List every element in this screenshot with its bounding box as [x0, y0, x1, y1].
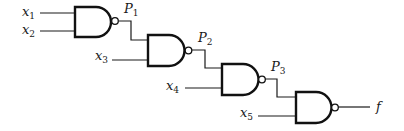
- svg-text:x1: x1: [22, 4, 35, 21]
- label-f: f: [375, 99, 383, 114]
- label-p3: P3: [270, 59, 286, 76]
- nand-gate-4: [296, 92, 338, 123]
- svg-text:x4: x4: [166, 78, 179, 95]
- wire-p3: [265, 79, 296, 97]
- label-x5: x5: [240, 105, 253, 122]
- inversion-bubble: [185, 47, 192, 54]
- svg-text:x2: x2: [22, 22, 35, 39]
- inversion-bubble: [112, 18, 119, 25]
- label-x1: x1: [22, 4, 35, 21]
- svg-text:P2: P2: [197, 30, 212, 47]
- label-p2: P2: [197, 30, 212, 47]
- nand-gate-1: [75, 7, 118, 37]
- wire-p1: [119, 21, 148, 40]
- inversion-bubble: [259, 76, 266, 83]
- wire-p2: [192, 50, 222, 68]
- nand-chain-circuit: x1 x2 x3 x4 x5 P1 P2 P3 f: [0, 0, 404, 131]
- label-x2: x2: [22, 22, 35, 39]
- label-x4: x4: [166, 78, 179, 95]
- svg-text:x5: x5: [240, 105, 253, 122]
- nand-gate-3: [222, 64, 265, 95]
- inversion-bubble: [332, 104, 339, 111]
- svg-text:P1: P1: [123, 1, 138, 18]
- svg-text:f: f: [375, 99, 383, 114]
- svg-text:P3: P3: [270, 59, 286, 76]
- label-x3: x3: [95, 48, 108, 65]
- label-p1: P1: [123, 1, 138, 18]
- nand-gate-2: [148, 35, 192, 66]
- svg-text:x3: x3: [95, 48, 108, 65]
